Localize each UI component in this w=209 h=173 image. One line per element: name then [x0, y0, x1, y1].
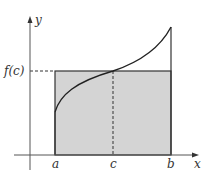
mvt-diagram: y x f(c) a c b	[0, 0, 209, 173]
x-axis-label: x	[194, 157, 201, 171]
b-label: b	[167, 157, 175, 171]
y-axis-label: y	[34, 13, 42, 27]
c-label: c	[110, 157, 117, 171]
y-axis-arrow-icon	[28, 16, 33, 23]
fc-label: f(c)	[3, 64, 25, 78]
a-label: a	[52, 157, 59, 171]
